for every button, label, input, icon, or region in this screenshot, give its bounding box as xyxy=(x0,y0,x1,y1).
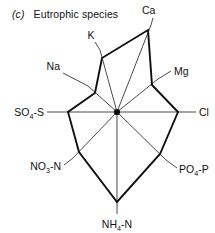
leader-no3-n xyxy=(64,158,73,165)
axis-label-no3-n-tail: -N xyxy=(50,160,61,172)
leader-na xyxy=(63,73,88,86)
leader-ca xyxy=(151,18,153,25)
radar-center-hub xyxy=(114,109,120,115)
axis-label-na: Na xyxy=(47,60,61,72)
radar-axes-group xyxy=(60,25,184,210)
axis-label-ca: Ca xyxy=(142,4,156,16)
radar-data-polygon xyxy=(68,30,178,202)
leader-k xyxy=(95,42,100,50)
axis-label-no3-n: NO3-N xyxy=(30,160,61,175)
axis-na xyxy=(88,86,117,112)
axis-label-k: K xyxy=(87,29,94,41)
axis-po4-p xyxy=(117,112,166,160)
axis-label-so4-s-main: SO xyxy=(14,106,29,118)
axis-label-no3-n-main: NO xyxy=(30,160,46,172)
axis-label-nh4-n-main: NH xyxy=(102,218,117,230)
figure-caption-text: Eutrophic species xyxy=(34,8,119,20)
axis-label-mg: Mg xyxy=(174,65,189,77)
figure-caption: (c) Eutrophic species xyxy=(12,8,118,20)
axis-label-nh4-n-tail: -N xyxy=(121,218,132,230)
axis-label-po4-p: PO4-P xyxy=(179,163,209,178)
axis-label-so4-s-tail: -S xyxy=(34,106,45,118)
radar-chart-svg: Ca Mg Cl PO4-P NH4-N NO3-N SO4-S Na K xyxy=(0,0,215,233)
axis-label-nh4-n: NH4-N xyxy=(102,218,132,233)
axis-label-po4-p-main: PO xyxy=(179,163,194,175)
radar-chart-figure: (c) Eutrophic species xyxy=(0,0,215,233)
axis-label-po4-p-tail: -P xyxy=(198,163,209,175)
leader-mg xyxy=(158,71,171,79)
leader-po4-p xyxy=(166,160,177,168)
axis-label-cl: Cl xyxy=(199,106,209,118)
axis-label-so4-s: SO4-S xyxy=(14,106,44,121)
figure-caption-index: (c) xyxy=(12,8,25,20)
